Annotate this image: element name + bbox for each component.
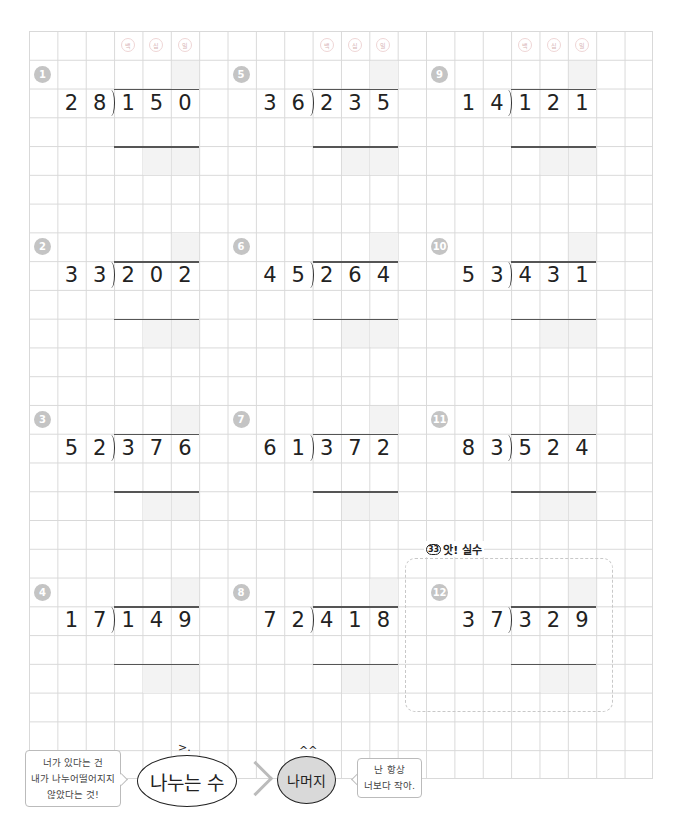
dividend-digit: 4 — [313, 606, 341, 634]
remainder-character-label: 나머지 — [287, 770, 326, 790]
mistake-label-text: 앗! 실수 — [443, 541, 482, 557]
shaded-cell — [370, 320, 397, 348]
shaded-cell — [172, 579, 199, 607]
dividend-digit: 1 — [511, 89, 539, 117]
dividend-digit: 5 — [142, 89, 170, 117]
shaded-cell — [569, 406, 596, 434]
divisor-digit: 5 — [454, 261, 482, 289]
subtraction-line — [313, 146, 398, 148]
mistake-icon: 33 — [426, 544, 441, 555]
dividend-digit: 3 — [114, 434, 142, 462]
divisor-digit: 3 — [57, 261, 85, 289]
left-speech-bubble: 너가 있다는 건 내가 나누어떨어지지 않았다는 것! — [25, 750, 121, 807]
shaded-cell — [370, 492, 397, 520]
dividend-digit: 0 — [142, 261, 170, 289]
subtraction-line — [313, 664, 398, 666]
subtraction-line — [313, 491, 398, 493]
dividend-digit: 6 — [171, 434, 199, 462]
divisor-digit: 6 — [256, 434, 284, 462]
dividend-digit: 8 — [369, 606, 397, 634]
dividend-digit: 4 — [568, 434, 596, 462]
dividend-digit: 1 — [568, 261, 596, 289]
shaded-cell — [541, 147, 568, 175]
divisor-digit: 8 — [454, 434, 482, 462]
shaded-cell — [342, 665, 369, 693]
shaded-cell — [172, 233, 199, 261]
place-value-header-icon: 십 — [348, 38, 362, 52]
divisor-digit: 7 — [256, 606, 284, 634]
subtraction-line — [511, 491, 596, 493]
shaded-cell — [342, 492, 369, 520]
problem-number-badge: 3 — [34, 411, 51, 428]
subtraction-line — [114, 146, 199, 148]
divisor-character-label: 나누는 수 — [150, 768, 224, 795]
dividend-digit: 3 — [341, 89, 369, 117]
divisor-digit: 2 — [57, 89, 85, 117]
shaded-cell — [172, 406, 199, 434]
divisor-digit: 3 — [256, 89, 284, 117]
subtraction-line — [114, 319, 199, 321]
dividend-digit: 3 — [540, 261, 568, 289]
shaded-cell — [370, 665, 397, 693]
dividend-digit: 2 — [313, 261, 341, 289]
left-bubble-line-1: 너가 있다는 건 — [26, 755, 120, 771]
shaded-cell — [172, 665, 199, 693]
mistake-section-label: 33 앗! 실수 — [424, 541, 484, 557]
mistake-section-box — [405, 558, 613, 712]
dividend-digit: 4 — [369, 261, 397, 289]
subtraction-line — [511, 319, 596, 321]
problem-number-badge: 11 — [431, 411, 448, 428]
shaded-cell — [172, 61, 199, 89]
dividend-digit: 3 — [313, 434, 341, 462]
subtraction-line — [114, 491, 199, 493]
left-bubble-line-2: 내가 나누어떨어지지 — [26, 771, 120, 787]
shaded-cell — [569, 233, 596, 261]
shaded-cell — [541, 320, 568, 348]
remainder-character: 나머지 — [277, 756, 336, 804]
problem-number-badge: 6 — [233, 238, 250, 255]
dividend-digit: 0 — [171, 89, 199, 117]
dividend-digit: 1 — [114, 89, 142, 117]
remainder-face-icon: ^^ — [299, 746, 317, 756]
place-value-header-icon: 일 — [178, 38, 192, 52]
shaded-cell — [569, 147, 596, 175]
problem-number-badge: 8 — [233, 584, 250, 601]
shaded-cell — [569, 492, 596, 520]
dividend-digit: 4 — [142, 606, 170, 634]
dividend-digit: 2 — [540, 434, 568, 462]
dividend-digit: 1 — [341, 606, 369, 634]
place-value-header-icon: 일 — [575, 38, 589, 52]
divisor-digit: 4 — [256, 261, 284, 289]
shaded-cell — [143, 320, 170, 348]
dividend-digit: 6 — [341, 261, 369, 289]
shaded-cell — [172, 492, 199, 520]
shaded-cell — [370, 406, 397, 434]
problem-number-badge: 5 — [233, 66, 250, 83]
dividend-digit: 9 — [171, 606, 199, 634]
dividend-digit: 1 — [114, 606, 142, 634]
subtraction-line — [114, 664, 199, 666]
shaded-cell — [569, 320, 596, 348]
dividend-digit: 2 — [114, 261, 142, 289]
shaded-cell — [342, 147, 369, 175]
dividend-digit: 2 — [171, 261, 199, 289]
place-value-header-icon: 백 — [320, 38, 334, 52]
right-bubble-line-2: 너보다 작아. — [358, 778, 421, 794]
subtraction-line — [511, 146, 596, 148]
shaded-cell — [143, 147, 170, 175]
dividend-digit: 5 — [369, 89, 397, 117]
problem-number-badge: 7 — [233, 411, 250, 428]
shaded-cell — [143, 665, 170, 693]
shaded-cell — [370, 61, 397, 89]
dividend-digit: 4 — [511, 261, 539, 289]
right-bubble-line-1: 난 항상 — [358, 762, 421, 778]
dividend-digit: 2 — [369, 434, 397, 462]
divisor-digit: 5 — [57, 434, 85, 462]
shaded-cell — [541, 492, 568, 520]
problem-number-badge: 1 — [34, 66, 51, 83]
right-speech-bubble: 난 항상 너보다 작아. — [357, 758, 422, 798]
shaded-cell — [342, 320, 369, 348]
left-bubble-line-3: 않았다는 것! — [26, 787, 120, 803]
dividend-digit: 2 — [540, 89, 568, 117]
place-value-header-icon: 백 — [121, 38, 135, 52]
